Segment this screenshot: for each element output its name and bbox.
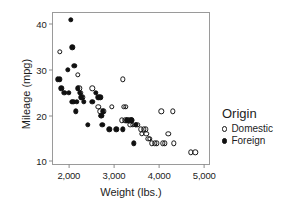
data-point-domestic <box>165 131 170 136</box>
x-tick-label: 4,000 <box>148 170 171 181</box>
data-point-foreign <box>107 127 112 132</box>
data-point-foreign <box>85 122 90 127</box>
x-tick-label: 5,000 <box>193 170 216 181</box>
y-tick-label: 40 <box>36 19 46 30</box>
data-point-domestic <box>120 77 125 82</box>
x-tick-mark <box>159 164 160 168</box>
data-point-domestic <box>123 104 128 109</box>
y-tick-mark <box>49 70 53 71</box>
y-tick-label: 10 <box>36 156 46 167</box>
filled-circle-icon <box>222 138 227 143</box>
data-point-domestic <box>170 108 175 113</box>
data-point-foreign <box>131 140 136 145</box>
data-point-domestic <box>75 72 80 77</box>
x-tick-2000: 2,000 <box>57 164 80 181</box>
data-point-foreign <box>90 99 95 104</box>
data-point-foreign <box>99 113 104 118</box>
data-point-foreign <box>113 127 118 132</box>
plot-area: 10203040 2,0003,0004,0005,000 <box>52 12 210 165</box>
data-point-foreign <box>70 45 75 50</box>
data-point-domestic <box>109 104 114 109</box>
x-tick-mark <box>204 164 205 168</box>
data-point-foreign <box>100 122 105 127</box>
data-point-domestic <box>57 49 62 54</box>
data-point-domestic <box>159 108 164 113</box>
legend-item-label: Domestic <box>231 124 273 134</box>
y-tick-40: 40 <box>36 19 53 30</box>
data-point-foreign <box>68 17 73 22</box>
open-circle-icon <box>222 126 227 131</box>
y-axis-label: Mileage (mpg) <box>20 19 32 169</box>
legend-item-foreign[interactable]: Foreign <box>222 136 286 146</box>
scatter-plot-figure: 10203040 2,0003,0004,0005,000 Weight (lb… <box>0 0 287 210</box>
data-point-foreign <box>57 77 62 82</box>
legend-entries: DomesticForeign <box>222 124 286 146</box>
y-tick-20: 20 <box>36 110 53 121</box>
x-tick-label: 2,000 <box>57 170 80 181</box>
y-tick-label: 20 <box>36 110 46 121</box>
y-tick-10: 10 <box>36 156 53 167</box>
data-point-foreign <box>98 95 103 100</box>
data-point-foreign <box>72 63 77 68</box>
legend-item-domestic[interactable]: Domestic <box>222 124 286 134</box>
x-tick-5000: 5,000 <box>193 164 216 181</box>
data-point-foreign <box>120 127 125 132</box>
data-point-foreign <box>66 90 71 95</box>
data-point-domestic <box>162 140 167 145</box>
x-tick-mark <box>68 164 69 168</box>
y-tick-mark <box>49 24 53 25</box>
data-point-foreign <box>74 99 79 104</box>
legend-item-label: Foreign <box>231 136 265 146</box>
data-point-domestic <box>192 150 197 155</box>
x-tick-label: 3,000 <box>103 170 126 181</box>
legend-title: Origin <box>222 107 286 120</box>
x-tick-3000: 3,000 <box>103 164 126 181</box>
data-point-foreign <box>73 108 78 113</box>
data-point-domestic <box>171 140 176 145</box>
data-point-foreign <box>81 99 86 104</box>
x-tick-4000: 4,000 <box>148 164 171 181</box>
x-axis-label: Weight (lbs.) <box>52 186 210 198</box>
x-tick-mark <box>113 164 114 168</box>
y-tick-mark <box>49 115 53 116</box>
y-tick-label: 30 <box>36 65 46 76</box>
data-point-foreign <box>65 67 70 72</box>
y-tick-mark <box>49 161 53 162</box>
legend: Origin DomesticForeign <box>222 107 286 146</box>
data-point-domestic <box>154 140 159 145</box>
y-tick-30: 30 <box>36 65 53 76</box>
